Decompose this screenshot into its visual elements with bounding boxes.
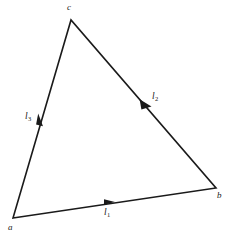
edge-label-l1: l1 [104,208,110,218]
vertex-label-c: c [67,3,71,12]
edge-label-l2-subscript: 2 [155,95,158,102]
edge-label-l3: l3 [25,112,31,122]
edge-label-l1-subscript: 1 [107,211,110,218]
triangle-outline [13,20,216,218]
vertex-label-a: a [8,223,13,232]
triangle-figure [0,0,235,235]
vertex-label-b: b [217,191,222,200]
edge-label-l3-subscript: 3 [28,115,31,122]
edge-label-l2: l2 [152,92,158,102]
arrowhead-l2-icon [140,99,152,109]
geometry-diagram: a b c l1 l2 l3 [0,0,235,235]
